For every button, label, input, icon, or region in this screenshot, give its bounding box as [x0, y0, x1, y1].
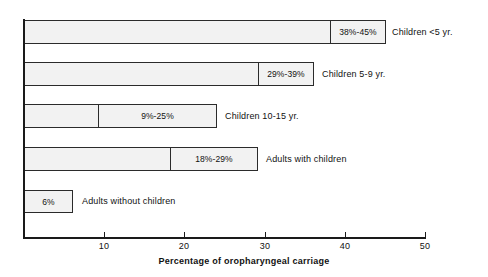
bar-category-label-adults-with-children: Adults with children: [266, 154, 347, 164]
bar-adults-without-children: 6%: [24, 190, 73, 213]
x-axis-tick-label-10: 10: [99, 241, 109, 251]
bar-range-segment: 6%: [25, 191, 72, 212]
bar-range-segment: 18%-29%: [170, 148, 257, 170]
bar-category-label-adults-without-children: Adults without children: [82, 196, 176, 206]
x-axis-tick-50: [425, 232, 426, 237]
bar-adults-with-children: 18%-29%: [24, 147, 258, 171]
bar-chart: 38%-45% Children <5 yr. 29%-39% Children…: [0, 0, 488, 277]
x-axis-tick-20: [184, 232, 185, 237]
bar-category-label-children-5-9: Children 5-9 yr.: [322, 69, 385, 79]
x-axis-tick-10: [104, 232, 105, 237]
bar-range-segment: 38%-45%: [330, 21, 385, 43]
bar-category-label-children-under-5: Children <5 yr.: [392, 27, 453, 37]
x-axis-tick-label-50: 50: [420, 241, 430, 251]
x-axis-line: [23, 237, 426, 239]
x-axis-tick-40: [345, 232, 346, 237]
bar-category-label-children-10-15: Children 10-15 yr.: [225, 111, 299, 121]
x-axis-tick-30: [265, 232, 266, 237]
bar-children-under-5: 38%-45%: [24, 20, 386, 44]
bar-children-10-15: 9%-25%: [24, 104, 217, 128]
bar-range-segment: 9%-25%: [98, 105, 216, 127]
y-axis-line: [23, 19, 25, 239]
bar-children-5-9: 29%-39%: [24, 62, 314, 86]
x-axis-tick-label-40: 40: [340, 241, 350, 251]
x-axis-title: Percentage of oropharyngeal carriage: [0, 256, 488, 266]
bar-range-segment: 29%-39%: [258, 63, 313, 85]
x-axis-tick-label-20: 20: [179, 241, 189, 251]
x-axis-tick-label-30: 30: [260, 241, 270, 251]
